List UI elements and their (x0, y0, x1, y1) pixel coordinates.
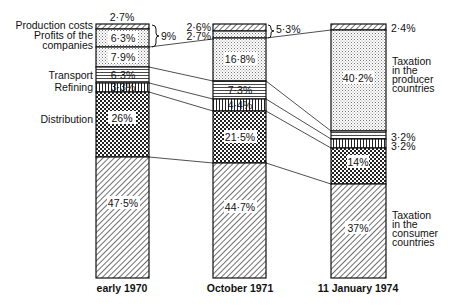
value-1970-profits: 6·3% (111, 32, 136, 44)
value-1970-production: 2·7% (110, 11, 135, 23)
value-1971-producer-tax: 16·8% (225, 53, 255, 65)
category-label-october-1971: October 1971 (207, 282, 274, 294)
brace-1971 (268, 25, 274, 38)
value-1974-producer-tax: 40·2% (343, 72, 373, 84)
segment-consumer-tax (213, 163, 266, 278)
label-consumer-tax: Taxation in the consumer countries (392, 209, 439, 248)
value-1971-profits: 2·7% (186, 30, 211, 42)
category-label-early-1970: early 1970 (97, 282, 148, 294)
value-1970-distribution: 26% (111, 112, 132, 124)
value-1970-consumer-tax: 47·5% (108, 197, 138, 209)
value-1974-consumer-tax: 37% (347, 222, 368, 234)
svg-text:countries: countries (392, 236, 435, 248)
label-distribution: Distribution (40, 113, 93, 125)
value-1974-distribution: 14% (347, 156, 368, 168)
value-1970-refining: 3·3% (111, 81, 136, 93)
label-refining: Refining (54, 81, 93, 93)
value-1971-distribution: 21·5% (225, 131, 255, 143)
label-profits-line2: companies (42, 39, 93, 51)
segment-distribution (96, 92, 149, 157)
segment-consumer-tax (96, 157, 149, 278)
label-producer-tax: Taxation in the producer countries (392, 55, 435, 94)
segment-production-costs (96, 24, 149, 29)
value-1974-production: 2·4% (391, 22, 416, 34)
value-1970-producer-tax: 7·9% (111, 51, 136, 63)
brace-1970-label: 9% (161, 30, 176, 42)
brace-1970 (152, 25, 159, 47)
bar-january-1974 (331, 24, 386, 278)
value-1971-consumer-tax: 44·7% (225, 201, 255, 213)
segment-production-costs (331, 24, 386, 30)
segment-transport (331, 131, 386, 139)
value-1970-transport: 6·3% (111, 69, 136, 81)
segment-profits (213, 31, 266, 38)
label-transport: Transport (48, 69, 93, 81)
segment-production-costs (213, 24, 266, 31)
segment-refining (331, 139, 386, 148)
svg-text:countries: countries (392, 82, 435, 94)
value-1974-refining: 3·2% (391, 140, 416, 152)
brace-1971-label: 5·3% (276, 23, 301, 35)
value-1971-refining: 4·4% (228, 99, 253, 111)
stacked-bar-chart: 2·7% 6·3% 7·9% 6·3% 3·3% 26% 47·5% 9% 2·… (0, 0, 455, 306)
value-1971-transport: 7·3% (228, 84, 253, 96)
category-label-january-1974: 11 January 1974 (318, 282, 399, 294)
